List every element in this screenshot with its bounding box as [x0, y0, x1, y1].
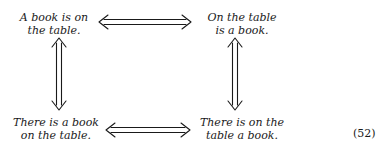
double-arrow-top-icon — [99, 15, 191, 29]
arrows-layer — [0, 0, 382, 149]
double-arrow-right-icon — [228, 38, 242, 110]
double-arrow-bottom-icon — [106, 123, 190, 137]
double-arrow-left-icon — [52, 38, 66, 110]
